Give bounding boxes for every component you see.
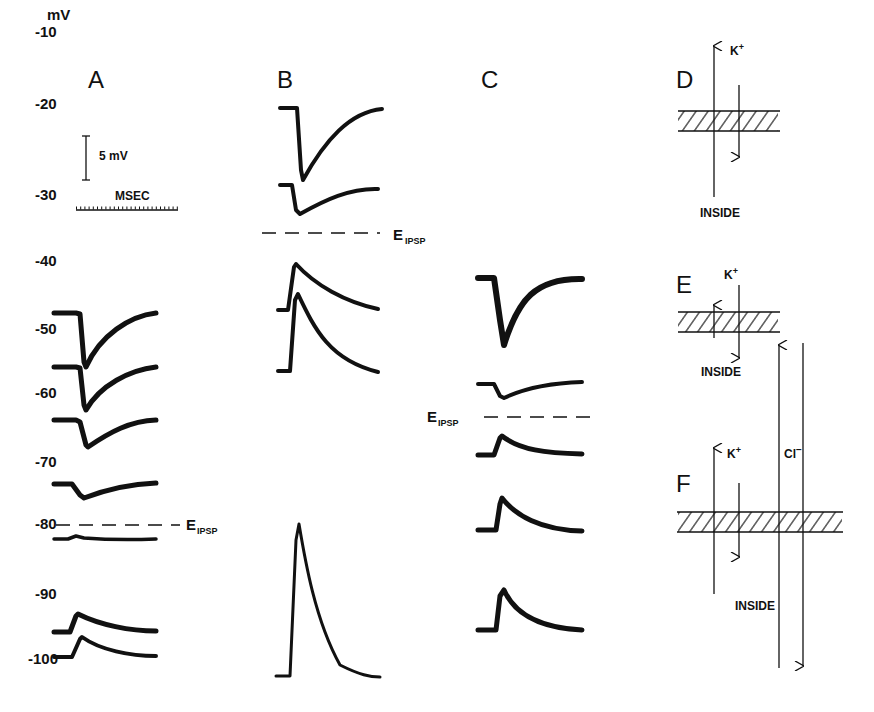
inside-label-d: INSIDE (700, 206, 740, 220)
e-ipsp-label-a: E (186, 516, 196, 533)
e-ipsp-subscript-c: IPSP (438, 418, 459, 428)
voltage-scale-label: 5 mV (99, 149, 128, 163)
trace-c-5 (478, 590, 582, 630)
y-tick-label: -70 (35, 453, 57, 470)
panel-label-d: D (676, 66, 693, 93)
panel-label-b: B (277, 66, 293, 93)
y-axis: mV -10 -20 -30 -40 -50 -60 -70 -80 -90 -… (28, 6, 70, 667)
panel-a: A E IPSP (54, 66, 218, 657)
y-tick-label: -90 (35, 585, 57, 602)
panel-label-c: C (481, 66, 498, 93)
y-tick-label: -30 (35, 186, 57, 203)
trace-b-1 (280, 108, 382, 180)
trace-a-5 (54, 536, 156, 540)
diagram-d: D K+ INSIDE (676, 42, 780, 220)
trace-a-1 (54, 313, 156, 367)
e-ipsp-label-c: E (427, 408, 437, 425)
membrane-e (678, 312, 778, 332)
inside-label-e: INSIDE (701, 365, 741, 379)
y-tick-label: -50 (35, 320, 57, 337)
e-ipsp-subscript-b: IPSP (405, 236, 426, 246)
scale-bar: 5 mV MSEC (76, 136, 178, 210)
k-ion-label-f: K+ (727, 445, 741, 461)
inside-label-f: INSIDE (735, 599, 775, 613)
k-ion-label-d: K+ (730, 42, 744, 58)
ipsp-figure: mV -10 -20 -30 -40 -50 -60 -70 -80 -90 -… (0, 0, 874, 712)
y-axis-unit: mV (47, 6, 70, 23)
e-ipsp-label-b: E (393, 226, 403, 243)
y-tick-label: -20 (35, 95, 57, 112)
trace-a-4 (54, 483, 156, 498)
trace-c-1 (478, 278, 582, 345)
panel-c: C E IPSP (427, 66, 590, 630)
membrane-d (678, 111, 778, 131)
y-tick-label: -40 (35, 252, 57, 269)
trace-c-3 (478, 436, 582, 455)
membrane-f (678, 512, 842, 532)
e-ipsp-subscript-a: IPSP (197, 526, 218, 536)
trace-c-4 (478, 498, 582, 531)
trace-b-2 (280, 185, 378, 214)
trace-a-7 (54, 637, 156, 657)
y-tick-label: -60 (35, 384, 57, 401)
panel-label-a: A (88, 66, 104, 93)
trace-b-5 (276, 524, 380, 677)
trace-a-2 (54, 367, 156, 410)
cl-ion-label: Cl− (784, 444, 802, 461)
panel-label-f: F (676, 470, 691, 497)
trace-a-6 (54, 614, 156, 632)
trace-c-2 (478, 382, 582, 398)
y-tick-label: -10 (35, 23, 57, 40)
k-ion-label-e: K+ (724, 266, 738, 282)
y-tick-label: -80 (35, 515, 57, 532)
panel-label-e: E (676, 271, 692, 298)
diagram-f: F K+ Cl− INSIDE (676, 343, 843, 668)
time-scale-label: MSEC (115, 189, 150, 203)
panel-b: B E IPSP (262, 66, 426, 677)
diagram-e: E K+ INSIDE (676, 266, 780, 379)
trace-a-3 (54, 420, 156, 447)
